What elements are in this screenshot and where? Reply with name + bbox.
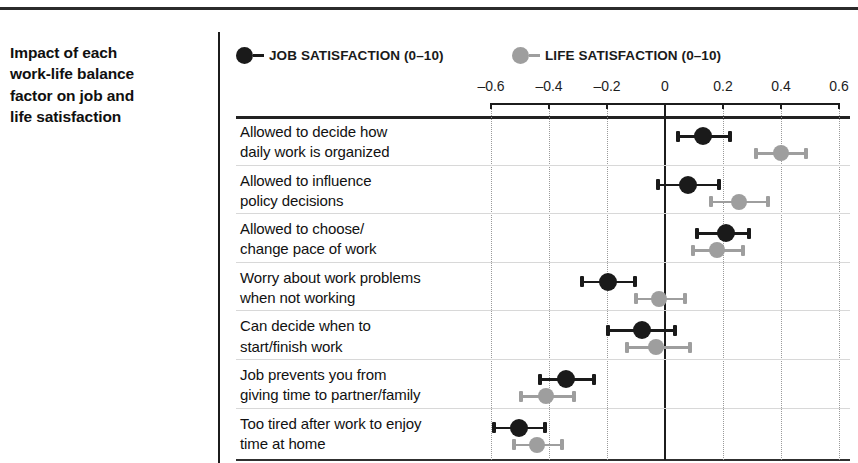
x-tick-label: 0.6	[829, 78, 848, 94]
plot-area: –0.6–0.4–0.200.20.40.6Allowed to decide …	[236, 78, 850, 460]
chart-caption: Impact of each work-life balance factor …	[10, 42, 206, 128]
row-label: Allowed to decide how daily work is orga…	[240, 122, 389, 163]
ci-cap-low	[519, 391, 523, 402]
ci-cap-low	[538, 374, 542, 385]
x-tick-label: 0.2	[713, 78, 732, 94]
ci-cap-low	[634, 293, 638, 304]
legend-bar-job-icon	[253, 54, 264, 57]
ci-cap-low	[695, 228, 699, 239]
x-tick-label: –0.2	[593, 78, 620, 94]
ci-cap-low	[656, 179, 660, 190]
legend-bar-life-icon	[529, 54, 540, 57]
row-separator	[236, 213, 850, 214]
chart-row: Too tired after work to enjoy time at ho…	[236, 411, 850, 459]
data-point-job	[717, 224, 735, 242]
row-label: Can decide when to start/finish work	[240, 316, 371, 357]
x-tick-label: 0.4	[771, 78, 790, 94]
ci-cap-low	[754, 148, 758, 159]
chart-row: Allowed to influence policy decisions	[236, 168, 850, 216]
row-separator	[236, 262, 850, 263]
x-tick-label: –0.4	[535, 78, 562, 94]
row-label: Worry about work problems when not worki…	[240, 268, 421, 309]
row-separator	[236, 310, 850, 311]
chart-row: Allowed to choose/ change pace of work	[236, 216, 850, 264]
ci-cap-high	[633, 276, 637, 287]
ci-cap-high	[572, 391, 576, 402]
chart-row: Can decide when to start/finish work	[236, 313, 850, 361]
row-separator	[236, 408, 850, 409]
data-point-life	[529, 437, 545, 453]
data-point-life	[731, 194, 747, 210]
ci-cap-low	[580, 276, 584, 287]
ci-cap-high	[766, 196, 770, 207]
data-point-job	[510, 419, 528, 437]
data-point-life	[773, 145, 789, 161]
legend-item-job-satisfaction: JOB SATISFACTION (0–10)	[236, 44, 444, 66]
data-point-life	[651, 291, 667, 307]
ci-cap-high	[741, 245, 745, 256]
ci-cap-high	[683, 293, 687, 304]
ci-cap-high	[673, 325, 677, 336]
row-separator	[236, 165, 850, 166]
top-divider	[0, 7, 858, 10]
caption-line-4: life satisfaction	[10, 106, 206, 127]
row-label: Allowed to choose/ change pace of work	[240, 219, 377, 260]
table-bottom-rule	[236, 459, 850, 461]
ci-cap-low	[691, 245, 695, 256]
ci-cap-low	[625, 342, 629, 353]
ci-cap-high	[592, 374, 596, 385]
chart-page: Impact of each work-life balance factor …	[0, 0, 858, 463]
row-label: Allowed to influence policy decisions	[240, 171, 371, 212]
caption-line-3: factor on job and	[10, 85, 206, 106]
ci-cap-low	[709, 196, 713, 207]
ci-cap-high	[804, 148, 808, 159]
vertical-divider	[218, 32, 220, 463]
row-separator	[236, 359, 850, 360]
legend-dot-life-icon	[512, 47, 529, 64]
legend-item-life-satisfaction: LIFE SATISFACTION (0–10)	[512, 44, 721, 66]
ci-cap-low	[606, 325, 610, 336]
chart-row: Allowed to decide how daily work is orga…	[236, 119, 850, 167]
row-label: Too tired after work to enjoy time at ho…	[240, 414, 421, 455]
x-tick-label: –0.6	[477, 78, 504, 94]
x-tick-label: 0	[661, 78, 669, 94]
ci-cap-low	[512, 439, 516, 450]
ci-cap-low	[676, 131, 680, 142]
ci-cap-high	[688, 342, 692, 353]
chart-row: Worry about work problems when not worki…	[236, 265, 850, 313]
ci-cap-high	[560, 439, 564, 450]
ci-cap-high	[728, 131, 732, 142]
legend-dot-job-icon	[236, 47, 253, 64]
legend-label-job: JOB SATISFACTION (0–10)	[269, 48, 444, 63]
ci-cap-high	[747, 228, 751, 239]
data-point-job	[679, 176, 697, 194]
data-point-life	[538, 388, 554, 404]
ci-cap-high	[543, 422, 547, 433]
ci-cap-high	[717, 179, 721, 190]
caption-line-2: work-life balance	[10, 63, 206, 84]
ci-cap-low	[492, 422, 496, 433]
data-point-job	[694, 127, 712, 145]
caption-line-1: Impact of each	[10, 42, 206, 63]
row-label: Job prevents you from giving time to par…	[240, 365, 421, 406]
legend-label-life: LIFE SATISFACTION (0–10)	[545, 48, 721, 63]
